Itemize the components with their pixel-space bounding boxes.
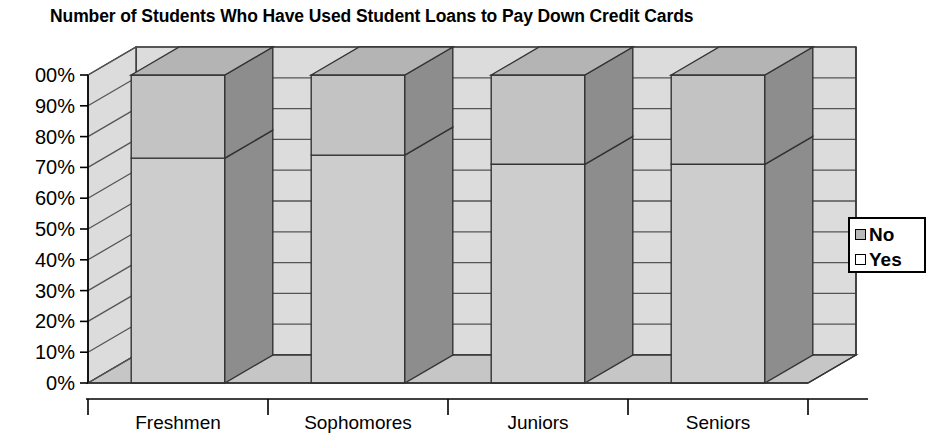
bar-segment-no-front [491, 75, 585, 164]
y-axis-tick-label: 20% [35, 310, 75, 332]
chart-legend: No Yes [848, 217, 926, 273]
chart-plot-area: 00%90%80%70%60%50%40%30%20%10%0%Freshmen… [0, 0, 940, 433]
bar-segment-yes-side [405, 127, 453, 383]
y-axis-tick-label: 00% [35, 64, 75, 86]
bar-sophomores [311, 47, 453, 383]
bar-segment-no-front [131, 75, 225, 158]
bar-segment-yes-front [311, 155, 405, 383]
legend-swatch-no-icon [855, 229, 866, 240]
bar-juniors [491, 47, 633, 383]
bar-segment-yes-front [131, 158, 225, 383]
x-axis-category-label: Seniors [686, 412, 750, 433]
legend-item-no: No [855, 222, 924, 247]
chart-container: Number of Students Who Have Used Student… [0, 0, 940, 433]
y-axis-tick-label: 50% [35, 218, 75, 240]
y-axis-tick-label: 60% [35, 187, 75, 209]
y-axis-tick-label: 0% [46, 372, 75, 394]
x-axis-category-label: Freshmen [135, 412, 221, 433]
bar-segment-yes-side [585, 136, 633, 383]
x-axis-category-label: Sophomores [304, 412, 412, 433]
bar-seniors [671, 47, 813, 383]
bar-segment-yes-front [491, 164, 585, 383]
bar-freshmen [131, 47, 273, 383]
bar-segment-no-front [671, 75, 765, 164]
legend-label-yes: Yes [869, 250, 902, 269]
y-axis-tick-label: 30% [35, 280, 75, 302]
bar-segment-yes-side [225, 130, 273, 383]
y-axis-tick-label: 80% [35, 126, 75, 148]
y-axis-tick-label: 10% [35, 341, 75, 363]
legend-item-yes: Yes [855, 247, 924, 272]
bar-segment-yes-front [671, 164, 765, 383]
y-axis-tick-label: 40% [35, 249, 75, 271]
y-axis-tick-label: 70% [35, 156, 75, 178]
x-axis-category-label: Juniors [507, 412, 568, 433]
y-axis-tick-label: 90% [35, 95, 75, 117]
bar-segment-no-front [311, 75, 405, 155]
legend-swatch-yes-icon [855, 254, 866, 265]
legend-label-no: No [869, 225, 894, 244]
bar-segment-yes-side [765, 136, 813, 383]
